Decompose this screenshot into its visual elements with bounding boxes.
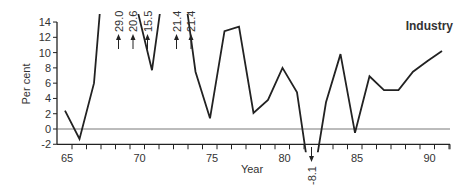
y-tick-label: 10 — [39, 47, 51, 59]
annotation-down: -8.1 — [306, 147, 318, 185]
x-tick-label: 80 — [278, 152, 290, 164]
annotation-up: 29.0 — [113, 11, 125, 49]
arrowhead — [116, 34, 121, 40]
annotation-value: 21.4 — [185, 11, 197, 32]
arrowhead — [145, 34, 150, 40]
x-tick-label: 65 — [61, 152, 73, 164]
annotation-value: 15.5 — [142, 11, 154, 32]
y-tick-label: 14 — [39, 16, 51, 28]
annotation-value: 20.6 — [127, 11, 139, 32]
annotation-up: 20.6 — [127, 11, 139, 49]
chart-title: Industry — [406, 19, 454, 33]
y-tick-label: 12 — [39, 31, 51, 43]
annotation-value: 21.4 — [171, 11, 183, 32]
annotation-up: 15.5 — [142, 11, 154, 49]
annotation-up: 21.4 — [171, 11, 183, 49]
x-axis-label: Year — [241, 163, 264, 175]
arrowhead — [131, 34, 136, 40]
arrowhead — [189, 34, 194, 40]
annotation-value: 29.0 — [113, 11, 125, 32]
y-tick-label: 6 — [45, 77, 51, 89]
annotation-value: -8.1 — [306, 166, 318, 185]
y-tick-label: 4 — [45, 92, 51, 104]
y-tick-label: 0 — [45, 123, 51, 135]
y-tick-label: 2 — [45, 108, 51, 120]
arrowhead — [309, 156, 314, 162]
y-tick-label: 8 — [45, 62, 51, 74]
arrowhead — [174, 34, 179, 40]
line-chart: -202468101214657075808590 29.020.615.521… — [0, 0, 474, 188]
annotation-up: 21.4 — [185, 11, 197, 49]
x-tick-label: 90 — [423, 152, 435, 164]
y-axis-label: Per cent — [20, 64, 32, 105]
x-tick-label: 75 — [206, 152, 218, 164]
x-tick-label: 85 — [351, 152, 363, 164]
x-tick-label: 70 — [133, 152, 145, 164]
y-tick-label: -2 — [41, 138, 51, 150]
